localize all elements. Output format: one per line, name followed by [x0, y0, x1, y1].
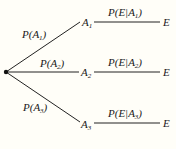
event-e-2: E: [162, 66, 170, 78]
branch-label-2: P(A2): [39, 57, 65, 71]
node-a3: A3: [80, 118, 92, 132]
node-a2: A2: [80, 66, 92, 80]
root-node: [4, 70, 8, 74]
conditional-label-2: P(E|A2): [107, 56, 142, 70]
conditional-label-1: P(E|A1): [107, 6, 142, 20]
probability-tree-diagram: P(A1) P(A2) P(A3) A1 A2 A3 P(E|A1) P(E|A…: [0, 0, 176, 149]
conditional-label-3: P(E|A3): [107, 107, 142, 121]
event-e-3: E: [162, 117, 170, 129]
branch-label-3: P(A3): [22, 101, 48, 115]
event-e-1: E: [162, 16, 170, 28]
node-a1: A1: [81, 16, 92, 30]
branch-label-1: P(A1): [21, 28, 47, 42]
